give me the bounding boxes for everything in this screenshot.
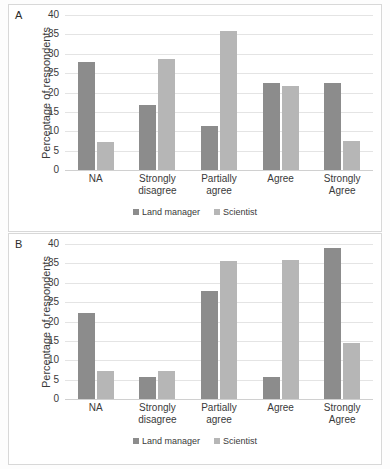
y-tick-label: 25: [39, 68, 59, 78]
legend-swatch-icon: [133, 209, 139, 215]
y-tick-label: 20: [39, 317, 59, 327]
legend-label: Land manager: [142, 207, 200, 217]
x-tick-label: NA: [65, 402, 127, 426]
bar: [139, 105, 156, 170]
legend-swatch-icon: [214, 209, 220, 215]
bar: [220, 261, 237, 399]
legend-swatch-icon: [133, 438, 139, 444]
x-tick-label: Strongly disagree: [127, 173, 189, 197]
bar: [343, 141, 360, 170]
bar-group: [65, 244, 127, 399]
y-tick-label: 35: [39, 29, 59, 39]
bar: [282, 260, 299, 399]
bar: [324, 83, 341, 170]
bar: [158, 59, 175, 170]
x-tick-label: Agree: [250, 402, 312, 426]
legend-item: Land manager: [133, 207, 200, 217]
y-tick-label: 40: [39, 239, 59, 249]
panel-a: A Percentage of respondents 403530252015…: [8, 4, 382, 232]
y-tick-label: 40: [39, 10, 59, 20]
bar-group: [65, 15, 127, 170]
x-axis-labels-b: NAStrongly disagreePartially agreeAgreeS…: [65, 402, 373, 426]
y-tick-label: 15: [39, 107, 59, 117]
gridline: [65, 170, 373, 171]
plot-canvas-a: [65, 15, 373, 170]
x-tick-label: Agree: [250, 173, 312, 197]
bar: [263, 83, 280, 170]
y-axis-title-b-wrap: Percentage of respondents: [19, 244, 35, 399]
bar-group: [127, 244, 189, 399]
legend-a: Land managerScientist: [9, 207, 381, 217]
bar: [78, 313, 95, 399]
bar-group: [311, 244, 373, 399]
y-tick-label: 35: [39, 258, 59, 268]
bar-group: [127, 15, 189, 170]
legend-b: Land managerScientist: [9, 436, 381, 446]
y-tick-label: 5: [39, 375, 59, 385]
y-tick-label: 0: [39, 165, 59, 175]
bar: [158, 371, 175, 399]
legend-label: Land manager: [142, 436, 200, 446]
x-tick-label: Partially agree: [188, 402, 250, 426]
x-tick-label: NA: [65, 173, 127, 197]
gridline: [65, 399, 373, 400]
bar: [97, 371, 114, 399]
bar: [220, 31, 237, 170]
y-tick-label: 30: [39, 49, 59, 59]
x-axis-labels-a: NAStrongly disagreePartially agreeAgreeS…: [65, 173, 373, 197]
bar: [201, 126, 218, 170]
plot-area-b: 4035302520151050: [39, 244, 373, 399]
bar: [78, 62, 95, 170]
bar: [282, 86, 299, 170]
y-tick-label: 10: [39, 355, 59, 365]
y-axis-ticks-a: 4035302520151050: [39, 15, 59, 170]
legend-label: Scientist: [223, 436, 257, 446]
y-tick-label: 25: [39, 297, 59, 307]
bar-group: [188, 244, 250, 399]
y-axis-title-a-wrap: Percentage of respondents: [19, 15, 35, 170]
y-tick-label: 30: [39, 278, 59, 288]
figure-container: A Percentage of respondents 403530252015…: [0, 0, 390, 469]
y-tick-label: 15: [39, 336, 59, 346]
legend-label: Scientist: [223, 207, 257, 217]
y-tick-label: 0: [39, 394, 59, 404]
bar: [97, 142, 114, 170]
legend-swatch-icon: [214, 438, 220, 444]
bar-group: [250, 15, 312, 170]
bar-groups-a: [65, 15, 373, 170]
legend-item: Scientist: [214, 207, 257, 217]
x-tick-label: Strongly disagree: [127, 402, 189, 426]
bar-group: [188, 15, 250, 170]
x-tick-label: Strongly Agree: [311, 402, 373, 426]
y-tick-label: 10: [39, 126, 59, 136]
plot-area-a: 4035302520151050: [39, 15, 373, 170]
x-tick-label: Strongly Agree: [311, 173, 373, 197]
bar: [263, 377, 280, 399]
bar: [324, 248, 341, 400]
bar: [343, 343, 360, 399]
legend-item: Land manager: [133, 436, 200, 446]
x-tick-label: Partially agree: [188, 173, 250, 197]
y-tick-label: 20: [39, 88, 59, 98]
bar-group: [311, 15, 373, 170]
y-axis-ticks-b: 4035302520151050: [39, 244, 59, 399]
y-tick-label: 5: [39, 146, 59, 156]
bar-groups-b: [65, 244, 373, 399]
legend-item: Scientist: [214, 436, 257, 446]
bar: [139, 377, 156, 399]
bar: [201, 291, 218, 400]
plot-canvas-b: [65, 244, 373, 399]
bar-group: [250, 244, 312, 399]
panel-b: B Percentage of respondents 403530252015…: [8, 233, 382, 465]
